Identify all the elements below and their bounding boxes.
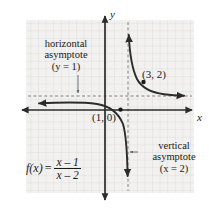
equals-sign: =	[45, 161, 52, 176]
vertical-asymptote-label: vertical asymptote (x = 2)	[140, 140, 208, 174]
x-axis-label: x	[197, 112, 202, 124]
vertical-asymptote-line1: vertical	[140, 140, 208, 151]
horizontal-asymptote-line3: (y = 1)	[28, 61, 104, 72]
horizontal-asymptote-label: horizontal asymptote (y = 1)	[28, 38, 104, 72]
vertical-asymptote-line3: (x = 2)	[140, 163, 208, 174]
vertical-asymptote-line2: asymptote	[140, 151, 208, 162]
horizontal-asymptote-line1: horizontal	[28, 38, 104, 49]
horizontal-asymptote-line2: asymptote	[28, 49, 104, 60]
function-name: f(x)	[26, 161, 43, 176]
fraction-denominator: x – 2	[54, 169, 80, 181]
rational-function-figure: horizontal asymptote (y = 1) vertical as…	[0, 0, 213, 209]
point-label-1-0: (1, 0)	[92, 112, 116, 124]
point-label-3-2: (3, 2)	[142, 69, 166, 81]
function-equation: f(x) = x – 1 x – 2	[26, 156, 81, 181]
fraction: x – 1 x – 2	[54, 156, 80, 181]
fraction-numerator: x – 1	[54, 156, 80, 168]
point-marker-1-0	[118, 107, 122, 111]
y-axis-label: y	[110, 9, 115, 21]
